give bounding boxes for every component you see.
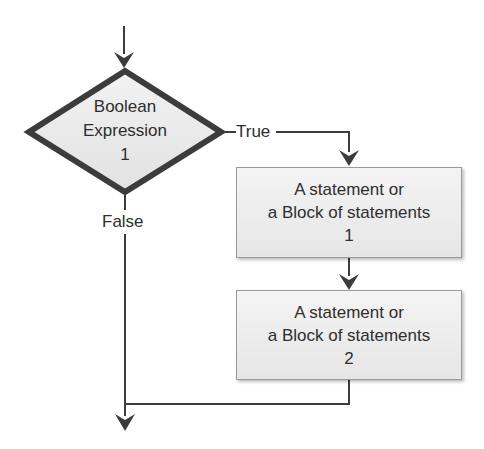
arrow-head-icon (339, 274, 359, 290)
statement-box-2: A statement or a Block of statements 2 (236, 290, 462, 380)
entry-arrow (114, 26, 134, 68)
flowchart-canvas: Boolean Expression 1 True False A statem… (0, 0, 484, 449)
exit-arrow (115, 414, 135, 431)
statement-box-1: A statement or a Block of statements 1 (236, 167, 462, 258)
true-label: True (236, 121, 270, 143)
arrow-head-icon (115, 414, 135, 431)
decision-line-1: Boolean (94, 95, 156, 119)
statement-1-line-1: A statement or (294, 178, 404, 201)
decision-line-3: 1 (120, 143, 129, 167)
decision-line-2: Expression (83, 119, 167, 143)
statement-2-line-2: a Block of statements (268, 324, 431, 347)
merge-connector (124, 380, 350, 405)
decision-label: Boolean Expression 1 (55, 95, 195, 167)
statement-1-line-3: 1 (344, 224, 353, 247)
statement-2-line-3: 2 (344, 347, 353, 370)
statement-1-line-2: a Block of statements (268, 201, 431, 224)
arrow-head-icon (339, 150, 359, 166)
sequence-connector (339, 258, 359, 290)
statement-2-line-1: A statement or (294, 301, 404, 324)
arrow-head-icon (114, 52, 134, 68)
false-label: False (102, 211, 144, 233)
